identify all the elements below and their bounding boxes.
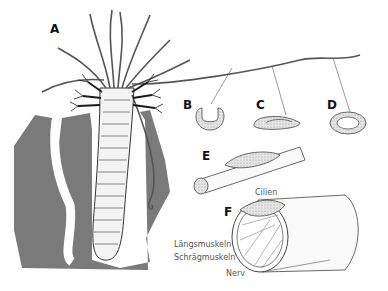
panel-label-a: A: [50, 22, 59, 36]
annotation-schraegmuskeln: Schrägmuskeln: [174, 253, 235, 262]
annotation-nerv: Nerv: [226, 269, 245, 278]
panel-label-e: E: [202, 149, 210, 163]
panel-label-d: D: [327, 98, 337, 112]
section-D: [330, 58, 366, 134]
panel-label-f: F: [224, 205, 232, 219]
section-E: [194, 147, 305, 194]
worm-body: [93, 88, 134, 260]
annotation-cilien: Cilien: [255, 188, 277, 197]
panel-label-c: C: [256, 98, 265, 112]
panel-label-b: B: [183, 98, 192, 112]
section-F: [232, 195, 358, 272]
annotation-laengsmuskeln: Längsmuskeln: [174, 240, 231, 249]
annelid-tube-diagram: A B C D E F Cilien Längsmuskeln Schrägmu…: [0, 0, 388, 291]
